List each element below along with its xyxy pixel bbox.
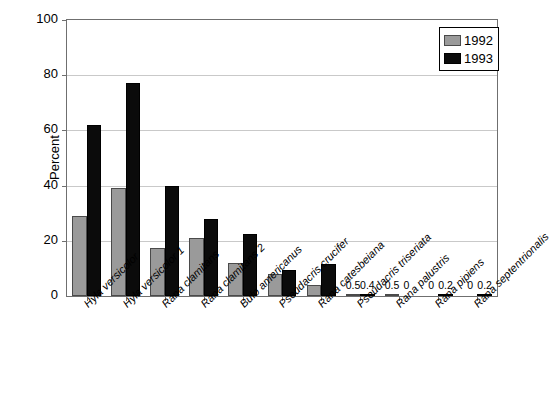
legend-item-1993: 1993 xyxy=(444,49,493,67)
legend-swatch-1993 xyxy=(444,53,461,64)
legend-swatch-1992 xyxy=(444,35,461,46)
y-tick-label: 60 xyxy=(12,122,58,135)
bar-1992-rana-catesbeiana xyxy=(307,285,321,296)
y-tick-label: 20 xyxy=(12,233,58,246)
y-tick-mark xyxy=(62,75,67,76)
y-tick-mark xyxy=(62,241,67,242)
y-tick-label: 80 xyxy=(12,67,58,80)
gridline xyxy=(67,75,497,76)
y-axis-tick-labels: 020406080100 xyxy=(12,0,58,404)
bar-1992-hyla-versicolor xyxy=(72,216,86,296)
legend-label-1992: 1992 xyxy=(464,34,493,47)
y-tick-mark xyxy=(62,130,67,131)
y-tick-mark xyxy=(62,186,67,187)
y-tick-label: 40 xyxy=(12,178,58,191)
y-tick-label: 100 xyxy=(12,12,58,25)
y-tick-label: 0 xyxy=(12,288,58,301)
y-tick-mark xyxy=(62,20,67,21)
bar-1993-rana-clamitans xyxy=(165,186,179,296)
chart-legend: 19921993 xyxy=(439,27,499,71)
bar-1993-hyla-versicolor xyxy=(87,125,101,296)
legend-item-1992: 1992 xyxy=(444,31,493,49)
legend-label-1993: 1993 xyxy=(464,52,493,65)
